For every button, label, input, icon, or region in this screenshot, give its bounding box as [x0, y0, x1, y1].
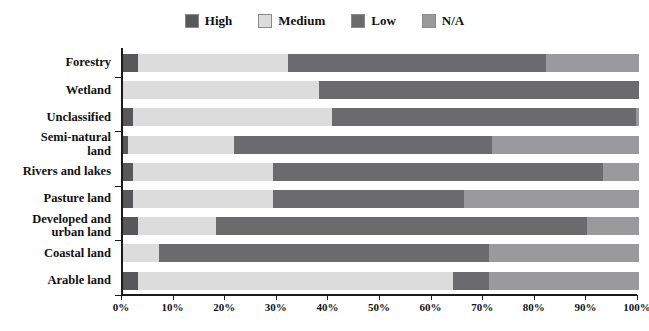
bar-segment-low[interactable] [216, 217, 588, 235]
category-label-line: land [41, 145, 111, 158]
category-label: Coastal land [0, 240, 113, 266]
category-label: Arable land [0, 268, 113, 294]
legend-item-low: Low [351, 14, 396, 28]
bar-segment-low[interactable] [159, 244, 489, 262]
stacked-bar[interactable] [123, 54, 639, 72]
category-label-line: urban land [32, 226, 111, 239]
legend-item-n-a: N/A [422, 14, 464, 28]
chart-legend: HighMediumLowN/A [0, 14, 649, 28]
category-label-text: Pasture land [44, 192, 112, 205]
category-label-text: Developed andurban land [32, 213, 111, 239]
stacked-bar[interactable] [123, 190, 639, 208]
legend-swatch-icon [422, 14, 436, 28]
bar-segment-high[interactable] [123, 272, 138, 290]
legend-swatch-icon [185, 14, 199, 28]
category-label-line: Arable land [47, 274, 111, 287]
x-axis-tick-label: 80% [523, 301, 545, 313]
bar-segment-medium[interactable] [123, 244, 159, 262]
category-label: Forestry [0, 50, 113, 76]
x-axis-tick-label: 90% [574, 301, 596, 313]
category-label-line: Forestry [65, 56, 111, 69]
category-label: Developed andurban land [0, 213, 113, 239]
category-label: Rivers and lakes [0, 159, 113, 185]
bar-segment-low[interactable] [319, 81, 639, 99]
x-axis-tick [327, 295, 328, 300]
bar-segment-n-a[interactable] [489, 244, 639, 262]
bar-segment-medium[interactable] [138, 54, 288, 72]
bar-segment-high[interactable] [123, 108, 133, 126]
x-axis-tick-label: 30% [265, 301, 287, 313]
category-label: Pasture land [0, 186, 113, 212]
legend-label: Medium [278, 14, 325, 28]
x-axis-tick [431, 295, 432, 300]
category-label-line: Semi-natural [41, 131, 111, 144]
x-axis-tick [482, 295, 483, 300]
x-axis-tick-label: 10% [162, 301, 184, 313]
bar-segment-medium[interactable] [123, 81, 319, 99]
bar-segment-high[interactable] [123, 163, 133, 181]
x-axis-tick-label: 0% [113, 301, 130, 313]
legend-swatch-icon [351, 14, 365, 28]
bar-row: Forestry [0, 50, 649, 76]
bar-segment-n-a[interactable] [489, 272, 639, 290]
x-axis-tick [276, 295, 277, 300]
bar-row: Developed andurban land [0, 213, 649, 239]
bar-segment-n-a[interactable] [464, 190, 639, 208]
stacked-bar[interactable] [123, 272, 639, 290]
stacked-bar[interactable] [123, 163, 639, 181]
x-axis-tick-label: 60% [420, 301, 442, 313]
bar-segment-high[interactable] [123, 217, 138, 235]
x-axis-tick-label: 70% [471, 301, 493, 313]
bar-row: Wetland [0, 77, 649, 103]
bar-segment-low[interactable] [234, 136, 492, 154]
legend-swatch-icon [258, 14, 272, 28]
bar-segment-n-a[interactable] [603, 163, 639, 181]
bar-segment-low[interactable] [332, 108, 636, 126]
bar-segment-medium[interactable] [138, 272, 453, 290]
x-axis-tick-label: 40% [316, 301, 338, 313]
bar-segment-high[interactable] [123, 54, 138, 72]
bar-segment-low[interactable] [453, 272, 489, 290]
x-axis-tick [637, 295, 638, 300]
bar-segment-low[interactable] [288, 54, 546, 72]
x-axis-tick [585, 295, 586, 300]
legend-label: N/A [442, 14, 464, 28]
bar-segment-medium[interactable] [128, 136, 234, 154]
bar-row: Coastal land [0, 240, 649, 266]
bar-segment-medium[interactable] [133, 163, 272, 181]
category-label-line: Coastal land [44, 247, 111, 260]
bar-segment-low[interactable] [273, 190, 464, 208]
bar-segment-medium[interactable] [133, 108, 332, 126]
bar-row: Semi-naturalland [0, 132, 649, 158]
x-axis-tick-label: 100% [623, 301, 649, 313]
bar-segment-n-a[interactable] [587, 217, 639, 235]
bar-segment-n-a[interactable] [636, 108, 639, 126]
bar-segment-low[interactable] [273, 163, 603, 181]
category-label: Wetland [0, 77, 113, 103]
bar-segment-medium[interactable] [133, 190, 272, 208]
legend-item-high: High [185, 14, 232, 28]
stacked-bar[interactable] [123, 217, 639, 235]
x-axis-tick-label: 50% [368, 301, 390, 313]
category-label-text: Rivers and lakes [23, 165, 111, 178]
category-label-text: Unclassified [46, 111, 111, 124]
stacked-bar[interactable] [123, 108, 639, 126]
x-axis-tick [121, 295, 122, 300]
stacked-bar[interactable] [123, 81, 639, 99]
bar-row: Unclassified [0, 104, 649, 130]
stacked-bar[interactable] [123, 244, 639, 262]
bar-segment-medium[interactable] [138, 217, 215, 235]
legend-label: Low [371, 14, 396, 28]
bar-segment-high[interactable] [123, 190, 133, 208]
x-axis-tick [379, 295, 380, 300]
category-label-text: Forestry [65, 56, 111, 69]
bar-segment-n-a[interactable] [492, 136, 639, 154]
category-label: Semi-naturalland [0, 132, 113, 158]
chart-plot-area: ForestryWetlandUnclassifiedSemi-naturall… [0, 45, 649, 331]
category-label-text: Arable land [47, 274, 111, 287]
bar-segment-n-a[interactable] [546, 54, 639, 72]
x-axis-tick [534, 295, 535, 300]
stacked-bar[interactable] [123, 136, 639, 154]
category-label-text: Coastal land [44, 247, 111, 260]
legend-item-medium: Medium [258, 14, 325, 28]
